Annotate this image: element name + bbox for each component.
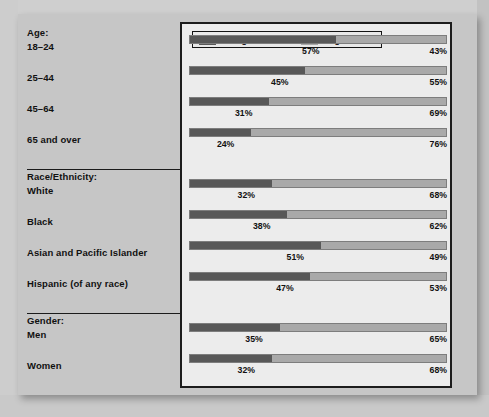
stacked-bar xyxy=(189,272,447,281)
bar-row: 47%53% xyxy=(189,272,447,294)
bar-segment-registered xyxy=(321,242,446,249)
bar-segment-unregistered xyxy=(190,355,272,362)
value-label-unregistered: 32% xyxy=(238,365,255,375)
plot-area: UnregisteredRegistered 57%43%45%55%31%69… xyxy=(182,24,450,386)
scan-edge-bottom xyxy=(0,395,489,417)
value-label-registered: 55% xyxy=(430,77,447,87)
value-label-row: 38%62% xyxy=(189,221,447,232)
page-background: Age:18–2425–4445–6465 and overRace/Ethni… xyxy=(0,0,489,417)
value-label-row: 24%76% xyxy=(189,139,447,150)
value-label-registered: 49% xyxy=(430,252,447,262)
bar-segment-unregistered xyxy=(190,180,272,187)
category-label: White xyxy=(27,185,53,196)
group-title: Age: xyxy=(27,27,49,38)
value-label-unregistered: 24% xyxy=(217,139,234,149)
bar-row: 31%69% xyxy=(189,97,447,119)
bar-segment-unregistered xyxy=(190,67,305,74)
bar-row: 51%49% xyxy=(189,241,447,263)
category-label: 25–44 xyxy=(27,72,54,83)
chart-frame: UnregisteredRegistered 57%43%45%55%31%69… xyxy=(180,22,452,388)
category-label: 45–64 xyxy=(27,103,54,114)
bar-segment-registered xyxy=(310,273,446,280)
value-label-registered: 65% xyxy=(430,334,447,344)
bar-row: 24%76% xyxy=(189,128,447,150)
bar-segment-registered xyxy=(336,36,446,43)
value-label-registered: 68% xyxy=(430,365,447,375)
category-label: Men xyxy=(27,329,46,340)
value-label-registered: 43% xyxy=(430,46,447,56)
value-label-row: 35%65% xyxy=(189,334,447,345)
bar-row: 32%68% xyxy=(189,179,447,201)
value-label-row: 32%68% xyxy=(189,190,447,201)
bar-segment-registered xyxy=(280,324,446,331)
category-label: 18–24 xyxy=(27,41,54,52)
group-title: Race/Ethnicity: xyxy=(27,171,97,182)
category-label: Asian and Pacific Islander xyxy=(27,247,147,258)
stacked-bar xyxy=(189,128,447,137)
bar-segment-unregistered xyxy=(190,324,280,331)
group-title: Gender: xyxy=(27,315,64,326)
bar-row: 32%68% xyxy=(189,354,447,376)
category-label: Hispanic (of any race) xyxy=(27,278,128,289)
bar-segment-registered xyxy=(272,180,446,187)
value-label-unregistered: 31% xyxy=(235,108,252,118)
value-label-unregistered: 57% xyxy=(302,46,319,56)
value-label-row: 45%55% xyxy=(189,77,447,88)
value-label-unregistered: 45% xyxy=(271,77,288,87)
stacked-bar xyxy=(189,35,447,44)
bar-segment-registered xyxy=(287,211,446,218)
stacked-bar xyxy=(189,354,447,363)
bar-segment-unregistered xyxy=(190,242,321,249)
bar-segment-unregistered xyxy=(190,273,310,280)
value-label-registered: 62% xyxy=(430,221,447,231)
bar-segment-registered xyxy=(251,129,446,136)
value-label-registered: 53% xyxy=(430,283,447,293)
category-label-column: Age:18–2425–4445–6465 and overRace/Ethni… xyxy=(27,14,187,395)
value-label-row: 31%69% xyxy=(189,108,447,119)
bar-segment-registered xyxy=(272,355,446,362)
value-label-unregistered: 32% xyxy=(238,190,255,200)
bar-row: 57%43% xyxy=(189,35,447,57)
stacked-bar xyxy=(189,323,447,332)
category-label: Women xyxy=(27,360,62,371)
category-label: 65 and over xyxy=(27,134,81,145)
value-label-registered: 76% xyxy=(430,139,447,149)
value-label-row: 47%53% xyxy=(189,283,447,294)
bar-row: 35%65% xyxy=(189,323,447,345)
scan-edge-right xyxy=(477,0,489,417)
bar-segment-registered xyxy=(305,67,446,74)
bar-segment-unregistered xyxy=(190,36,336,43)
value-label-unregistered: 38% xyxy=(253,221,270,231)
stacked-bar xyxy=(189,241,447,250)
stacked-bar xyxy=(189,179,447,188)
value-label-row: 51%49% xyxy=(189,252,447,263)
value-label-registered: 69% xyxy=(430,108,447,118)
bar-segment-registered xyxy=(269,98,446,105)
stacked-bar xyxy=(189,97,447,106)
stacked-bar xyxy=(189,66,447,75)
category-label: Black xyxy=(27,216,53,227)
value-label-unregistered: 51% xyxy=(287,252,304,262)
value-label-row: 57%43% xyxy=(189,46,447,57)
bar-segment-unregistered xyxy=(190,98,269,105)
bar-segment-unregistered xyxy=(190,211,287,218)
value-label-row: 32%68% xyxy=(189,365,447,376)
value-label-unregistered: 47% xyxy=(276,283,293,293)
scan-edge-top xyxy=(0,0,489,14)
value-label-registered: 68% xyxy=(430,190,447,200)
bar-segment-unregistered xyxy=(190,129,251,136)
scan-edge-left xyxy=(0,0,18,417)
value-label-unregistered: 35% xyxy=(245,334,262,344)
stacked-bar xyxy=(189,210,447,219)
bar-row: 45%55% xyxy=(189,66,447,88)
bar-row: 38%62% xyxy=(189,210,447,232)
